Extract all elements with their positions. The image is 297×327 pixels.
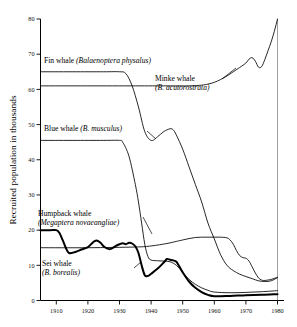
- x-tick-label: 1940: [145, 307, 157, 314]
- series-label-sei-sci: (B. borealis): [42, 268, 80, 277]
- x-tick-label: 1950: [177, 307, 189, 314]
- y-tick-label: 50: [28, 121, 34, 128]
- chart-canvas: Recruited population in thousands 010203…: [0, 0, 297, 327]
- x-tick-label: 1910: [50, 307, 62, 314]
- x-tick-label: 1920: [82, 307, 94, 314]
- y-tick-label: 80: [28, 15, 34, 22]
- y-tick-label: 70: [28, 50, 34, 57]
- y-tick-label: 30: [28, 191, 34, 198]
- x-tick-label: 1980: [271, 307, 283, 314]
- x-tick-label: 1970: [240, 307, 252, 314]
- x-axis-ticks: 19101920193019401950196019701980: [50, 301, 284, 314]
- series-label-minke: Minke whale (B. acutorostrata): [155, 74, 210, 92]
- series-label-blue: Blue whale (B. musculus): [44, 124, 122, 133]
- series-label-humpback-sci: (Megaptera novaeangliae): [38, 218, 119, 227]
- y-axis-ticks: 01020304050607080: [28, 15, 40, 304]
- y-tick-label: 60: [28, 86, 34, 93]
- x-tick-label: 1960: [208, 307, 220, 314]
- series-label-fin-common: Fin whale: [44, 56, 74, 65]
- series-label-minke-sci: (B. acutorostrata): [155, 83, 210, 92]
- y-tick-label: 20: [28, 226, 34, 233]
- y-tick-label: 0: [31, 297, 34, 304]
- series-label-fin-sci: (Balaenoptera physalus): [76, 56, 151, 65]
- y-axis-label: Recruited population in thousands: [8, 95, 18, 224]
- series-label-humpback: Humpback whale (Megaptera novaeangliae): [38, 209, 119, 227]
- leader-minke: [222, 68, 236, 79]
- whale-population-chart: Recruited population in thousands 010203…: [0, 0, 297, 327]
- series-line-fin-whale: [41, 72, 278, 282]
- label-leader-lines: [134, 68, 236, 268]
- series-label-minke-common: Minke whale: [155, 74, 210, 83]
- y-tick-label: 10: [28, 262, 34, 269]
- x-tick-label: 1930: [113, 307, 125, 314]
- y-tick-label: 40: [28, 156, 34, 163]
- series-label-sei: Sei whale (B. borealis): [42, 259, 80, 277]
- leader-humpback: [143, 217, 152, 234]
- leader-sei: [134, 262, 141, 268]
- series-label-blue-sci: (B. musculus): [80, 124, 122, 133]
- series-label-blue-common: Blue whale: [44, 124, 78, 133]
- series-label-sei-common: Sei whale: [42, 259, 80, 268]
- series-label-humpback-common: Humpback whale: [38, 209, 119, 218]
- series-label-fin: Fin whale (Balaenoptera physalus): [44, 56, 151, 65]
